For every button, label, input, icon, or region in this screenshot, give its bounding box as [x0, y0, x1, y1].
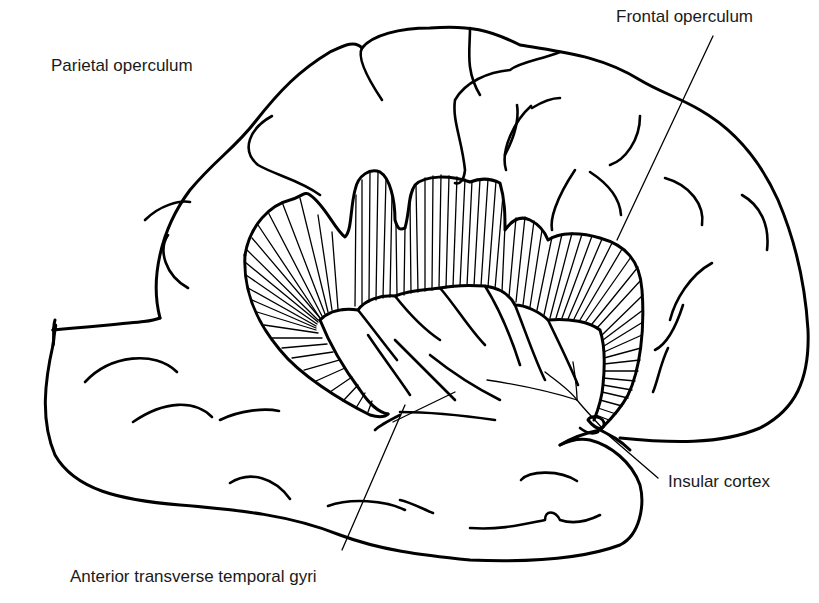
temporal-sulcus-7	[470, 513, 600, 529]
label-anterior-transverse-temporal-gyri: Anterior transverse temporal gyri	[70, 568, 317, 585]
opercular-hatching	[245, 172, 643, 420]
insular-gyrus-line-1	[358, 310, 397, 360]
insular-gyrus-line-2	[395, 296, 440, 340]
sulcus-1	[145, 202, 190, 220]
frontal-top-notch	[469, 28, 480, 95]
label-parietal-operculum: Parietal operculum	[51, 57, 193, 74]
frontal-sulcus-2	[532, 98, 560, 108]
temporal-sulcus-3	[220, 410, 279, 420]
temporal-sulcus-6	[521, 473, 577, 481]
label-frontal-operculum: Frontal operculum	[616, 8, 753, 25]
sulcus-2	[164, 235, 188, 288]
frontal-sulcus-6	[590, 172, 621, 215]
frontal-sulcus-10	[655, 305, 683, 350]
brain-outline	[156, 27, 808, 441]
brain-diagram: Parietal operculum Frontal operculum Ins…	[0, 0, 819, 603]
insula-inner-border	[320, 285, 604, 420]
leader-transverse-gyri-2	[393, 392, 455, 422]
occipital-edge	[53, 320, 55, 345]
insular-gyrus-line-6	[548, 320, 578, 385]
frontal-sulcus-8	[742, 195, 768, 250]
insular-gyrus-line-5	[515, 305, 545, 380]
frontal-sulcus-11	[653, 348, 668, 392]
insular-gyrus-line-7	[368, 335, 410, 395]
insula-converging-line-1	[487, 380, 577, 400]
temporal-sulcus-1	[85, 358, 177, 382]
frontal-sulcus-5	[552, 170, 575, 230]
insular-gyrus-line-4	[485, 286, 520, 365]
frontal-sulcus-4	[610, 116, 640, 165]
parietal-sulcus-line	[361, 48, 382, 100]
leader-insular-cortex	[600, 428, 658, 478]
temporal-sulcus-5	[328, 501, 405, 510]
parietal-sulcus-curve	[249, 116, 320, 195]
label-insular-cortex: Insular cortex	[668, 473, 770, 490]
insular-gyrus-line-3	[440, 288, 485, 345]
temporal-sulcus-2	[133, 405, 212, 422]
temporal-sulcus-4	[230, 477, 290, 499]
leader-frontal-operculum	[617, 36, 713, 240]
insular-gyrus-line-10	[400, 412, 495, 420]
insular-gyrus-line-9	[430, 355, 500, 400]
frontal-sulcus-9	[670, 263, 712, 320]
brain-drawing	[0, 0, 819, 603]
occipital-outline	[53, 318, 160, 330]
leader-transverse-gyri-1	[342, 405, 405, 550]
temporal-lobe-outline	[45, 325, 641, 561]
insular-gyrus-line-8	[395, 340, 455, 400]
frontal-sulcus-7	[665, 178, 702, 225]
